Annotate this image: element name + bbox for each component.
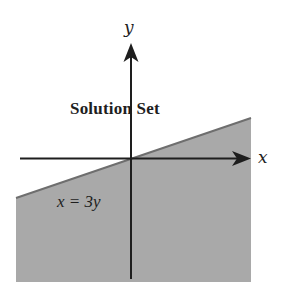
boundary-equation-label: x = 3y <box>57 193 101 210</box>
solution-set-diagram: y x Solution Set x = 3y <box>0 0 282 301</box>
y-axis-label: y <box>124 19 134 36</box>
coordinate-plane <box>0 0 282 301</box>
x-axis-label: x <box>258 149 268 166</box>
solution-set-title: Solution Set <box>70 100 160 117</box>
shaded-solution-region <box>16 118 251 282</box>
